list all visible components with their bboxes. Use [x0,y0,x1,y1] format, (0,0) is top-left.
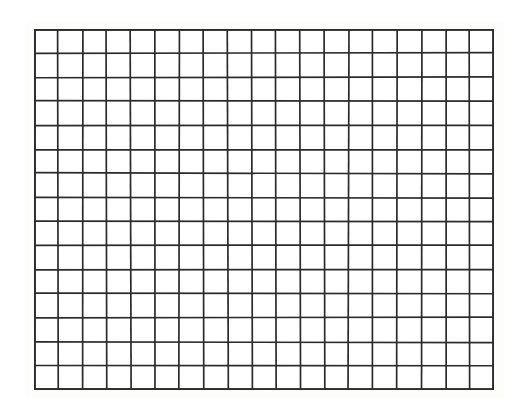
grid-line-horizontal-12 [34,317,494,318]
grid-line-vertical-8 [227,29,228,390]
grid-line-vertical-10 [275,29,276,390]
grid-line-vertical-4 [130,29,131,390]
grid-cell-background [34,29,494,390]
grid-line-vertical-11 [300,29,301,390]
grid-line-horizontal-2 [34,77,494,78]
blank-grid[interactable] [34,29,494,390]
grid-line-horizontal-13 [34,342,494,343]
page-root [0,0,528,409]
grid-line-vertical-13 [348,29,349,390]
grid-line-horizontal-6 [34,173,494,174]
grid-line-horizontal-3 [34,101,494,102]
grid-canvas[interactable] [34,29,494,390]
grid-line-vertical-7 [203,29,204,390]
grid-line-horizontal-1 [34,53,494,54]
grid-line-vertical-15 [397,29,398,390]
grid-line-vertical-1 [58,29,59,390]
grid-line-vertical-9 [252,29,253,390]
grid-line-horizontal-8 [34,221,494,222]
grid-line-vertical-6 [179,29,180,390]
grid-line-vertical-12 [324,29,325,390]
grid-line-horizontal-7 [34,197,494,198]
grid-line-horizontal-11 [34,293,494,294]
grid-line-vertical-3 [106,29,107,390]
